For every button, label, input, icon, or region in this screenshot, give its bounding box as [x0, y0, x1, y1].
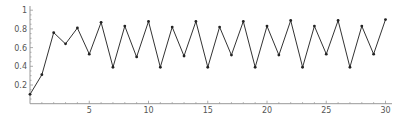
- data-point: [171, 26, 174, 29]
- data-point: [123, 25, 126, 28]
- data-point: [112, 66, 115, 69]
- data-point: [135, 56, 138, 59]
- data-point: [313, 25, 316, 28]
- data-point: [384, 18, 387, 21]
- y-tick-label: 0.4: [14, 62, 27, 71]
- axes: 510152025300.20.40.60.81: [14, 6, 392, 115]
- data-point: [372, 53, 375, 56]
- data-point: [52, 31, 55, 34]
- data-point: [195, 20, 198, 23]
- data-point: [230, 54, 233, 57]
- data-point: [337, 19, 340, 22]
- data-point: [218, 26, 221, 29]
- data-point: [266, 25, 269, 28]
- x-tick-label: 20: [262, 106, 272, 115]
- data-point: [289, 19, 292, 22]
- y-tick-label: 0.6: [14, 44, 27, 53]
- data-point: [301, 66, 304, 69]
- data-line: [30, 20, 386, 95]
- x-tick-label: 25: [321, 106, 331, 115]
- y-tick-label: 1: [22, 6, 27, 15]
- data-point: [29, 93, 32, 96]
- x-tick-label: 10: [143, 106, 153, 115]
- data-point: [325, 53, 328, 56]
- data-point: [254, 66, 257, 69]
- data-point: [88, 53, 91, 56]
- data-point: [159, 66, 162, 69]
- y-tick-label: 0.8: [14, 25, 27, 34]
- x-tick-label: 5: [87, 106, 92, 115]
- data-point: [100, 21, 103, 24]
- data-point: [242, 20, 245, 23]
- data-point: [40, 73, 43, 76]
- data-point: [349, 66, 352, 69]
- x-tick-label: 30: [380, 106, 390, 115]
- data-point: [76, 27, 79, 30]
- data-point: [360, 25, 363, 28]
- y-tick-label: 0.2: [14, 81, 27, 90]
- data-point: [277, 54, 280, 57]
- data-point: [206, 66, 209, 69]
- plot-line: [29, 18, 387, 96]
- line-chart: 510152025300.20.40.60.81: [0, 0, 405, 118]
- x-tick-label: 15: [203, 106, 213, 115]
- data-point: [183, 55, 186, 58]
- data-point: [64, 42, 67, 45]
- data-point: [147, 20, 150, 23]
